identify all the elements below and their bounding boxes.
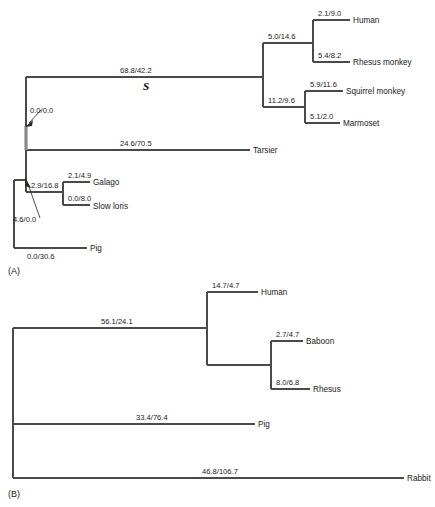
label-marmoset-branch-length: 5.1/2.0 — [310, 112, 333, 121]
label-rhesus-branch-length-b: 8.0/6.8 — [276, 378, 299, 387]
label-anthropoid-branch-length: 68.8/42.2 — [120, 66, 152, 75]
taxon-human: Human — [353, 16, 380, 25]
label-rabbit-branch-length-b: 46.8/106.7 — [202, 467, 238, 476]
taxon-marmoset: Marmoset — [343, 119, 380, 128]
taxon-pig: Pig — [90, 244, 102, 253]
label-squirrel-monkey-branch-length: 5.9/11.6 — [310, 80, 337, 89]
tree-canvas: 2.1/9.0 5.4/8.2 5.0/14.6 5.9/11.6 5.1/2.… — [0, 0, 435, 507]
taxon-squirrel-monkey: Squirrel monkey — [346, 87, 406, 96]
taxon-baboon-b: Baboon — [306, 337, 335, 346]
taxon-slow-loris: Slow loris — [93, 202, 128, 211]
label-slow-loris-branch-length: 0.0/8.0 — [68, 194, 91, 203]
taxon-galago: Galago — [93, 178, 120, 187]
panel-a-group: 2.1/9.0 5.4/8.2 5.0/14.6 5.9/11.6 5.1/2.… — [8, 9, 413, 276]
label-platyrrhine-branch-length: 11.2/9.6 — [268, 96, 295, 105]
panel-a-label: (A) — [8, 266, 20, 276]
taxon-human-b: Human — [261, 288, 288, 297]
label-primate-root-branch-length: 4.6/0.0 — [13, 215, 36, 224]
label-rhesus-monkey-branch-length: 5.4/8.2 — [318, 51, 341, 60]
panel-b-label: (B) — [8, 489, 20, 499]
taxon-rhesus-monkey: Rhesus monkey — [353, 58, 413, 67]
taxon-rhesus-b: Rhesus — [313, 385, 341, 394]
label-tarsier-branch-length: 24.6/70.5 — [120, 139, 152, 148]
label-galago-branch-length: 2.1/4.9 — [68, 171, 91, 180]
taxon-tarsier: Tarsier — [253, 146, 278, 155]
label-human-branch-length-b: 14.7/4.7 — [212, 281, 239, 290]
label-primate-branch-length-b: 56.1/24.1 — [101, 317, 133, 326]
label-pig-branch-length-b: 33.4/76.4 — [136, 413, 168, 422]
label-strepsirrhine-branch-length: 2.9/16.8 — [31, 181, 58, 190]
label-pig-branch-length: 0.0/30.6 — [27, 252, 54, 261]
taxon-pig-b: Pig — [258, 420, 270, 429]
panel-b-group: 14.7/4.7 2.7/4.7 8.0/6.8 56.1/24.1 33.4/… — [8, 281, 431, 499]
phylogenetic-figure: 2.1/9.0 5.4/8.2 5.0/14.6 5.9/11.6 5.1/2.… — [0, 0, 435, 507]
label-baboon-branch-length-b: 2.7/4.7 — [276, 330, 299, 339]
node-marker-s: S — [143, 80, 149, 92]
label-haplorhine-branch-length: 0.0/0.0 — [30, 106, 53, 115]
label-human-branch-length: 2.1/9.0 — [318, 9, 341, 18]
taxon-rabbit-b: Rabbit — [407, 474, 431, 483]
label-catarrhine-branch-length: 5.0/14.6 — [268, 32, 295, 41]
